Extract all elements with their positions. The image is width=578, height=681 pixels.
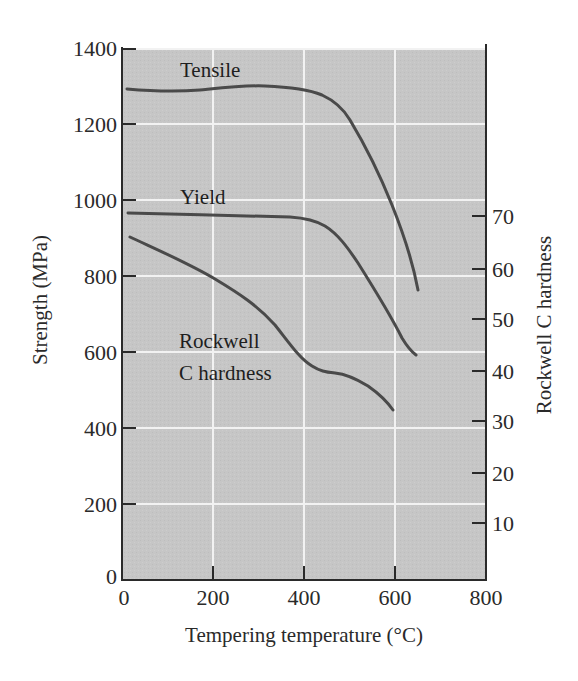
- label-yield: Yield: [180, 185, 226, 209]
- svg-text:200: 200: [84, 492, 117, 517]
- svg-text:200: 200: [197, 585, 230, 610]
- bottom-tick-labels: 0 200 400 600 800: [119, 585, 503, 610]
- label-tensile: Tensile: [180, 58, 240, 82]
- svg-text:70: 70: [492, 204, 514, 229]
- svg-text:10: 10: [492, 511, 514, 536]
- x-axis-title: Tempering temperature (°C): [185, 623, 423, 647]
- svg-text:600: 600: [84, 340, 117, 365]
- svg-text:600: 600: [379, 585, 412, 610]
- svg-text:800: 800: [84, 264, 117, 289]
- tempering-strength-chart: Tensile Yield Rockwell C hardness 1400 1…: [0, 0, 578, 681]
- svg-text:800: 800: [470, 585, 503, 610]
- label-hardness-line2: C hardness: [179, 361, 272, 385]
- svg-text:30: 30: [492, 409, 514, 434]
- svg-text:50: 50: [492, 307, 514, 332]
- left-tick-labels: 1400 1200 1000 800 600 400 200 0: [73, 36, 117, 589]
- y2-axis-title: Rockwell C hardness: [532, 236, 556, 414]
- svg-text:20: 20: [492, 461, 514, 486]
- svg-text:1200: 1200: [73, 112, 117, 137]
- svg-text:1400: 1400: [73, 36, 117, 61]
- svg-text:40: 40: [492, 359, 514, 384]
- svg-text:1000: 1000: [73, 188, 117, 213]
- y-axis-title: Strength (MPa): [28, 235, 52, 365]
- label-hardness-line1: Rockwell: [179, 329, 260, 353]
- svg-text:400: 400: [84, 416, 117, 441]
- svg-text:60: 60: [492, 257, 514, 282]
- svg-text:400: 400: [288, 585, 321, 610]
- svg-text:0: 0: [119, 585, 130, 610]
- svg-text:0: 0: [106, 564, 117, 589]
- right-tick-labels: 70 60 50 40 30 20 10: [492, 204, 514, 536]
